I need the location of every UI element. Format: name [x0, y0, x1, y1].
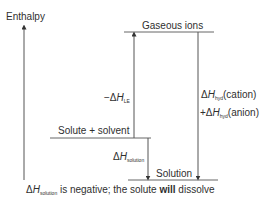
solute-solvent-label: Solute + solvent [58, 125, 129, 136]
hydration-cation-label: ΔHhyd(cation) [201, 89, 256, 104]
lattice-energy-label: −ΔHLE [104, 92, 130, 107]
gaseous-ions-label: Gaseous ions [142, 20, 203, 31]
hydration-anion-label: +ΔHhyd(anion) [200, 107, 259, 122]
solution-label: Solution [156, 168, 192, 179]
caption: ΔHsolution is negative; the solute will … [26, 184, 214, 199]
axis-label: Enthalpy [6, 11, 45, 22]
solution-enthalpy-label: ΔHsolution [113, 151, 144, 166]
